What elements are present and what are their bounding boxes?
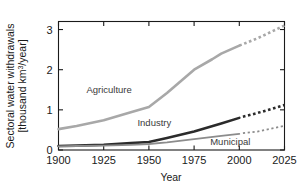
chart-figure: 190019251950197520002025 0123 Agricultur…: [0, 0, 297, 187]
y-tick-label-0: 0: [46, 144, 52, 156]
x-axis-title: Year: [160, 171, 182, 183]
y-tick-label-1: 1: [46, 104, 52, 116]
y-unit-tail: /year]: [16, 39, 28, 65]
y-axis-title-line2: [thousand km3/year]: [16, 39, 28, 132]
x-tick-label-1975: 1975: [182, 154, 206, 166]
y-tick-label-3: 3: [46, 24, 52, 36]
x-tick-label-2025: 2025: [272, 154, 296, 166]
y-unit-base: [thousand km: [16, 69, 28, 132]
x-tick-label-1950: 1950: [137, 154, 161, 166]
y-axis-title-line1: Sectoral water withdrawals: [4, 24, 16, 149]
series-label-municipal: Municipal: [210, 136, 250, 147]
x-tick-label-1925: 1925: [91, 154, 115, 166]
series-label-industry: Industry: [137, 117, 171, 128]
y-tick-label-2: 2: [46, 64, 52, 76]
line-chart-svg: 190019251950197520002025 0123 Agricultur…: [0, 0, 297, 187]
series-label-agriculture: Agriculture: [86, 84, 131, 95]
x-tick-label-2000: 2000: [227, 154, 251, 166]
